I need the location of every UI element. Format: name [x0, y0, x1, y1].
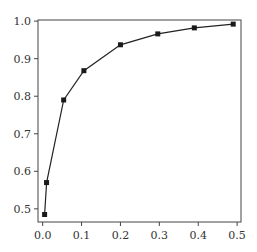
- data-point-marker: [192, 25, 197, 30]
- y-axis: 0.50.60.70.80.91.0: [14, 15, 39, 216]
- y-tick-label: 0.8: [14, 90, 32, 103]
- x-axis: 0.00.10.20.30.40.5: [34, 222, 246, 242]
- y-tick-label: 0.5: [14, 203, 32, 216]
- data-line: [45, 24, 234, 214]
- y-tick-label: 0.9: [14, 53, 32, 66]
- data-point-marker: [231, 22, 236, 27]
- data-point-marker: [81, 68, 86, 73]
- x-tick-label: 0.4: [189, 229, 207, 242]
- data-point-marker: [155, 31, 160, 36]
- data-point-marker: [61, 97, 66, 102]
- x-tick-label: 0.3: [151, 229, 169, 242]
- y-tick-label: 1.0: [14, 15, 32, 28]
- x-tick-label: 0.2: [112, 229, 130, 242]
- data-point-marker: [44, 180, 49, 185]
- data-markers: [42, 22, 236, 217]
- y-tick-label: 0.7: [14, 128, 32, 141]
- x-tick-label: 0.0: [34, 229, 52, 242]
- line-chart: 0.00.10.20.30.40.5 0.50.60.70.80.91.0: [0, 0, 257, 252]
- data-point-marker: [42, 212, 47, 217]
- y-tick-label: 0.6: [14, 165, 32, 178]
- plot-frame: [38, 20, 241, 222]
- x-tick-label: 0.5: [228, 229, 246, 242]
- data-point-marker: [118, 42, 123, 47]
- x-tick-label: 0.1: [73, 229, 91, 242]
